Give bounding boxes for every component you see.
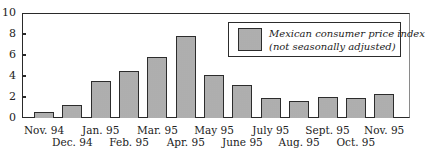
bar [91,81,111,118]
y-tick-label: 10 [2,7,16,19]
bar [147,57,167,118]
bar [62,105,82,118]
x-tick-label: Nov. 94 [24,124,64,136]
y-tick-label: 4 [2,70,16,82]
y-tick [22,75,26,77]
bar [204,75,224,118]
x-tick-label: Jan. 95 [82,124,119,136]
x-tick-label: June 95 [222,136,263,148]
x-tick-label: Apr. 95 [167,136,205,148]
legend: Mexican consumer price index (not season… [228,22,401,57]
y-tick-label: 2 [2,91,16,103]
bar [289,101,309,118]
x-tick-label: Sept. 95 [305,124,349,136]
bar [34,112,54,118]
y-tick-label: 8 [2,28,16,40]
x-tick-label: Mar. 95 [137,124,178,136]
legend-text: Mexican consumer price index (not season… [269,27,425,53]
legend-swatch [238,28,262,51]
bar [346,98,366,118]
x-tick-label: Aug. 95 [279,136,320,148]
x-tick-label: July 95 [252,124,289,136]
y-tick-label: 0 [2,112,16,124]
bar [261,98,281,118]
y-tick-label: 6 [2,49,16,61]
x-tick-label: Dec. 94 [52,136,93,148]
legend-line-2: (not seasonally adjusted) [269,40,425,53]
x-tick-label: Feb. 95 [109,136,149,148]
x-tick-label: Nov. 95 [364,124,404,136]
bar [176,36,196,118]
y-tick [22,96,26,98]
y-tick [22,54,26,56]
x-tick-label: May 95 [194,124,234,136]
x-tick-label: Oct. 95 [336,136,375,148]
y-tick [22,33,26,35]
bar [318,97,338,118]
bar [374,94,394,118]
bar [232,85,252,118]
legend-line-1: Mexican consumer price index [269,27,425,40]
bar [119,71,139,118]
